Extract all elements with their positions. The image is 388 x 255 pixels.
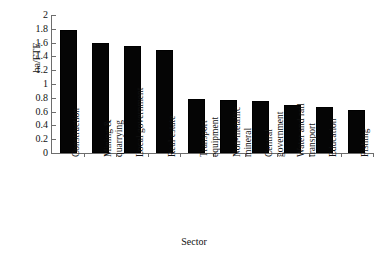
x-tick-mark xyxy=(373,153,374,157)
x-tick-label: Central government xyxy=(264,87,285,157)
bar-chart-figure: ha/FTE 21.81.61.41.210.80.60.40.20 Const… xyxy=(0,0,388,255)
y-tick-label: 2 xyxy=(43,10,52,20)
y-tick-mark xyxy=(52,153,56,154)
x-axis-title: Sector xyxy=(0,236,388,247)
y-tick-label: 1.2 xyxy=(36,65,53,75)
y-tick-label: 1.8 xyxy=(36,24,53,34)
x-tick-label: Education xyxy=(328,87,339,157)
x-tick-label: Transport equipment xyxy=(199,87,220,157)
x-tick-label: Water and rail transport xyxy=(296,87,317,157)
y-tick-label: 0.4 xyxy=(36,120,53,130)
x-tick-label: Non-metallic mineral xyxy=(232,87,253,157)
x-tick-label: Fishing xyxy=(360,87,371,157)
y-tick-label: 0.8 xyxy=(36,93,53,103)
y-tick-label: 0.6 xyxy=(36,107,53,117)
y-tick-label: 1.4 xyxy=(36,51,53,61)
x-tick-label: Real estate xyxy=(167,87,178,157)
y-tick-label: 0.2 xyxy=(36,134,53,144)
x-axis-category-labels: ConstructionMining & quarryingLocal gove… xyxy=(51,157,373,227)
x-tick-label: Mining & quarrying xyxy=(103,87,124,157)
x-tick-label: Construction xyxy=(71,87,82,157)
y-tick-label: 1 xyxy=(43,79,52,89)
y-tick-label: 1.6 xyxy=(36,38,53,48)
x-tick-label: Local government xyxy=(135,87,146,157)
